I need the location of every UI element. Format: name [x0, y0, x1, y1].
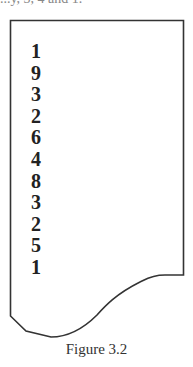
- digit-column: 1 9 3 2 6 4 8 3 2 5 1: [31, 41, 41, 279]
- figure-caption: Figure 3.2: [0, 341, 193, 358]
- torn-paper-strip: [0, 0, 193, 367]
- digit: 9: [31, 63, 41, 85]
- digit: 2: [31, 214, 41, 236]
- digit: 1: [31, 257, 41, 279]
- digit: 3: [31, 192, 41, 214]
- digit: 1: [31, 41, 41, 63]
- digit: 5: [31, 235, 41, 257]
- digit: 3: [31, 84, 41, 106]
- digit: 2: [31, 106, 41, 128]
- digit: 4: [31, 149, 41, 171]
- digit: 6: [31, 127, 41, 149]
- digit: 8: [31, 171, 41, 193]
